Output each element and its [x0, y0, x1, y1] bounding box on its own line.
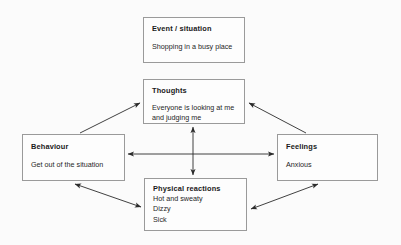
node-event-situation-title: Event / situation: [152, 24, 244, 33]
arrow-behaviour-physical: [75, 184, 141, 207]
node-behaviour-body: Get out of the situation: [31, 160, 124, 170]
node-feelings-body: Anxious: [286, 160, 377, 170]
arrow-behaviour-to-thoughts: [80, 103, 140, 133]
node-behaviour-title: Behaviour: [31, 142, 124, 151]
node-thoughts: Thoughts Everyone is looking at me and j…: [143, 79, 245, 124]
cbt-diagram: Event / situation Shopping in a busy pla…: [0, 0, 401, 245]
node-event-situation-body: Shopping in a busy place: [152, 42, 244, 52]
node-behaviour: Behaviour Get out of the situation: [22, 134, 125, 181]
node-thoughts-body: Everyone is looking at me and judging me: [152, 103, 244, 124]
arrow-feelings-to-thoughts: [249, 103, 306, 133]
node-event-situation: Event / situation Shopping in a busy pla…: [143, 17, 245, 63]
arrow-physical-feelings: [251, 184, 318, 209]
node-physical-reactions: Physical reactions Hot and sweaty Dizzy …: [144, 178, 247, 231]
node-thoughts-title: Thoughts: [152, 86, 244, 95]
node-feelings-title: Feelings: [286, 142, 377, 151]
node-physical-reactions-title: Physical reactions: [153, 184, 246, 193]
node-physical-reactions-body: Hot and sweaty Dizzy Sick: [153, 194, 246, 225]
node-feelings: Feelings Anxious: [277, 134, 378, 181]
